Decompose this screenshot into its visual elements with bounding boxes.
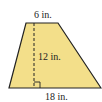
top-base-label: 6 in. xyxy=(34,9,52,20)
trapezoid-diagram: 6 in. 12 in. 18 in. xyxy=(0,0,102,102)
height-label: 12 in. xyxy=(38,51,61,62)
bottom-base-label: 18 in. xyxy=(45,91,68,102)
